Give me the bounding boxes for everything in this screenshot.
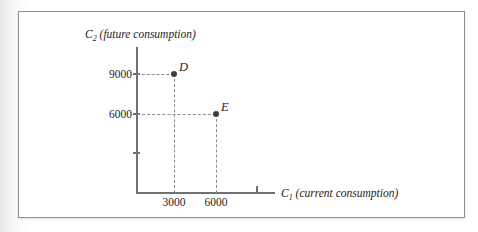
data-point-label-d: D xyxy=(179,60,188,75)
x-tick-label-3000: 3000 xyxy=(152,196,196,208)
figure-root: D E 9000 6000 3000 6000 C2 (future consu… xyxy=(0,0,478,232)
x-tick-label-6000: 6000 xyxy=(194,196,238,208)
y-tick-unlabeled xyxy=(133,152,140,154)
x-tick-unlabeled xyxy=(256,186,258,193)
y-axis-title-text: (future consumption) xyxy=(97,28,196,40)
guide-line-d-vertical xyxy=(174,74,175,193)
y-tick-label-9000: 9000 xyxy=(92,68,132,80)
guide-line-e-horizontal xyxy=(137,114,216,115)
x-axis-line xyxy=(136,192,275,194)
y-axis-line xyxy=(136,47,138,194)
x-axis-title-text: (current consumption) xyxy=(293,187,399,199)
x-axis-title-symbol: C xyxy=(281,187,289,199)
plot-area: D E 9000 6000 3000 6000 C2 (future consu… xyxy=(0,0,478,232)
x-axis-title: C1 (current consumption) xyxy=(281,187,398,202)
data-point-d xyxy=(171,71,177,77)
y-tick-label-6000: 6000 xyxy=(92,108,132,120)
guide-line-d-horizontal xyxy=(137,74,174,75)
data-point-label-e: E xyxy=(221,100,229,115)
y-axis-title-symbol: C xyxy=(85,28,93,40)
guide-line-e-vertical xyxy=(216,114,217,193)
data-point-e xyxy=(213,111,219,117)
y-axis-title: C2 (future consumption) xyxy=(85,28,196,43)
